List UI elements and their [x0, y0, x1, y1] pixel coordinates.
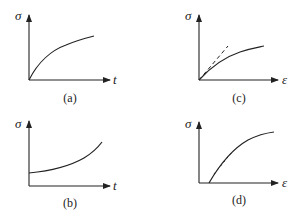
panel-c-y-label: σ	[185, 8, 191, 24]
panel-d-y-label: σ	[185, 116, 191, 132]
curve	[29, 142, 102, 173]
panel-c-caption: (c)	[219, 91, 259, 106]
panel-b-y-label: σ	[15, 116, 21, 132]
panel-a-x-label: t	[113, 72, 117, 88]
panel-d-x-label: ε	[282, 175, 287, 191]
panel-b-caption: (b)	[50, 196, 90, 211]
curve	[209, 132, 274, 183]
panel-d-caption: (d)	[219, 193, 259, 208]
diagram-canvas	[0, 0, 303, 218]
panel-a-y-label: σ	[15, 8, 21, 24]
panel-d	[199, 122, 278, 183]
panel-a-caption: (a)	[50, 91, 90, 106]
panel-b-x-label: t	[113, 178, 117, 194]
panel-a	[29, 15, 110, 80]
curve	[29, 36, 94, 80]
panel-b	[29, 121, 110, 186]
panel-c	[199, 15, 278, 80]
panel-c-x-label: ε	[282, 72, 287, 88]
curve	[199, 46, 264, 80]
